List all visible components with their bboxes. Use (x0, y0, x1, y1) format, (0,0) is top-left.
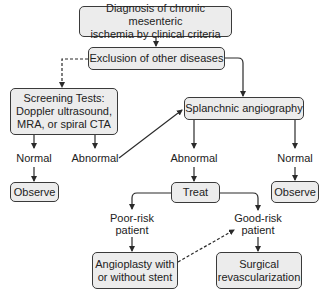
good-risk-line2: patient (231, 224, 285, 236)
angio-abnormal-label: Abnormal (169, 152, 219, 164)
observe-right-text: Observe (274, 186, 316, 199)
arrow-abnormal-to-angiography (119, 110, 182, 158)
arrow-treat-to-poor-risk (132, 193, 171, 209)
arrow-treat-to-good-risk (220, 193, 258, 210)
exclusion-text: Exclusion of other diseases (90, 52, 224, 65)
diagnosis-line2: ischemia by clinical criteria (90, 28, 220, 41)
surgical-line1: Surgical (239, 258, 279, 271)
poor-risk-label: Poor-risk patient (107, 212, 157, 236)
surgical-line2: revascularization (218, 271, 301, 284)
angioplasty-line2: or without stent (98, 271, 173, 284)
angiography-text: Splanchnic angiography (185, 102, 302, 115)
good-risk-label: Good-risk patient (231, 212, 285, 236)
exclusion-box: Exclusion of other diseases (88, 47, 225, 70)
screen-abnormal-label: Abnormal (70, 152, 120, 164)
arrow-exclusion-to-angiography (225, 58, 243, 96)
good-risk-line1: Good-risk (231, 212, 285, 224)
screening-tests-box: Screening Tests: Doppler ultrasound, MRA… (10, 88, 118, 135)
treat-box: Treat (171, 182, 220, 203)
screening-line1: Screening Tests: (23, 92, 104, 105)
dashed-arrow-exclusion-to-screening (62, 59, 88, 87)
diagnosis-box: Diagnosis of chronic mesenteric ischemia… (79, 6, 232, 37)
observe-right-box: Observe (271, 181, 319, 203)
screen-normal-label: Normal (14, 152, 54, 164)
poor-risk-line1: Poor-risk (107, 212, 157, 224)
surgical-revascularization-box: Surgical revascularization (216, 252, 302, 289)
observe-left-text: Observe (14, 186, 56, 199)
poor-risk-line2: patient (107, 224, 157, 236)
angio-normal-label: Normal (275, 152, 315, 164)
angioplasty-line1: Angioplasty with (95, 258, 175, 271)
observe-left-box: Observe (10, 182, 59, 202)
diagnosis-line1: Diagnosis of chronic mesenteric (80, 2, 231, 28)
splanchnic-angiography-box: Splanchnic angiography (184, 97, 304, 120)
angioplasty-box: Angioplasty with or without stent (92, 252, 178, 289)
screening-line2: Doppler ultrasound, (16, 105, 112, 118)
screening-line3: MRA, or spiral CTA (17, 118, 111, 131)
treat-text: Treat (183, 186, 208, 199)
